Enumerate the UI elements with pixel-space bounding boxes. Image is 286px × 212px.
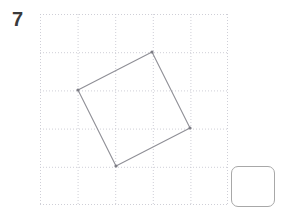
grid-canvas[interactable]	[40, 14, 228, 205]
worksheet-canvas: 7	[0, 0, 286, 212]
question-number-label: 7	[12, 9, 23, 29]
rotated-square-outline[interactable]	[78, 52, 190, 166]
vertex-handle-left[interactable]	[76, 88, 79, 91]
vertex-handle-top[interactable]	[150, 50, 153, 53]
vertex-handle-bottom[interactable]	[114, 164, 117, 167]
shape-layer[interactable]	[40, 14, 228, 205]
vertex-handle-right[interactable]	[188, 126, 191, 129]
blank-tool-button[interactable]	[231, 166, 275, 207]
